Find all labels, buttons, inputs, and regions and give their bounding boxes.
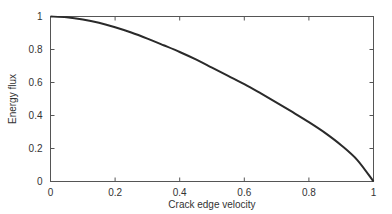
x-tick-label: 1 <box>371 187 377 198</box>
y-axis-ticks: 00.20.40.60.81 <box>29 11 374 187</box>
energy-flux-series-line <box>51 17 374 182</box>
x-axis-ticks: 00.20.40.60.81 <box>48 17 377 198</box>
plot-frame <box>51 17 374 182</box>
x-tick-label: 0 <box>48 187 54 198</box>
y-axis-label: Energy flux <box>7 74 18 124</box>
x-tick-label: 0.4 <box>173 187 187 198</box>
energy-flux-chart: 00.20.40.60.81 00.20.40.60.81 Crack edge… <box>0 0 392 214</box>
y-tick-label: 0.6 <box>29 77 43 88</box>
y-tick-label: 1 <box>37 11 43 22</box>
x-axis-label: Crack edge velocity <box>168 199 255 210</box>
x-tick-label: 0.2 <box>108 187 122 198</box>
y-tick-label: 0.2 <box>29 143 43 154</box>
x-tick-label: 0.8 <box>302 187 316 198</box>
y-tick-label: 0 <box>37 176 43 187</box>
y-tick-label: 0.4 <box>29 110 43 121</box>
x-tick-label: 0.6 <box>237 187 251 198</box>
y-tick-label: 0.8 <box>29 44 43 55</box>
